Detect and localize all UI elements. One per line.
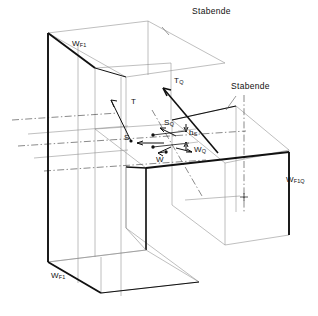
vector-S (137, 141, 164, 145)
label-force-s-base: S (124, 133, 130, 142)
label-w-f1-bottom: WF1 (51, 272, 65, 281)
label-w-f1-bottom-sub: F1 (59, 274, 65, 280)
label-force-w-base: W (156, 155, 164, 164)
right-member-outline (146, 152, 289, 235)
label-force-s: S (124, 134, 130, 143)
label-force-sq: SQ (164, 119, 174, 128)
label-force-t: T (131, 98, 136, 107)
label-w-f1-top-base: W (72, 39, 80, 48)
label-w-f1-top: WF1 (72, 40, 86, 49)
label-w-f1q-sub: F1Q (294, 178, 305, 184)
label-force-w: W (156, 156, 164, 165)
label-w-f1-bottom-base: W (51, 271, 59, 280)
label-w-f1q-base: W (286, 175, 294, 184)
central-channel-thin (126, 167, 146, 250)
axis-ticks (240, 193, 248, 201)
label-force-sq-sub: Q (170, 121, 174, 127)
leader-lines (162, 27, 236, 110)
label-dimension-hs-sub: S (194, 131, 198, 137)
label-dimension-hs: hS (189, 129, 197, 138)
left-member-outline (48, 33, 101, 293)
label-force-tq-sub: Q (179, 79, 183, 85)
label-force-wq-base: W (194, 145, 202, 154)
right-member-top-edge (172, 106, 236, 120)
label-force-wq: WQ (194, 146, 206, 155)
label-force-tq: TQ (174, 77, 183, 86)
label-stabende-top: Stabende (192, 7, 231, 16)
label-w-f1-top-sub: F1 (80, 42, 86, 48)
vector-SQ (160, 128, 176, 136)
left-member-edges (95, 68, 199, 293)
dimension-hs (184, 124, 188, 150)
label-force-t-base: T (131, 97, 136, 106)
label-force-wq-sub: Q (202, 148, 206, 154)
diagram-canvas: Stabende Stabende WF1 WF1 WF1Q T TQ S SQ… (0, 0, 318, 316)
label-w-f1q-right: WF1Q (286, 176, 305, 185)
label-stabende-right: Stabende (231, 82, 270, 91)
central-channel-outline (126, 167, 146, 250)
vector-WQ (176, 148, 192, 152)
